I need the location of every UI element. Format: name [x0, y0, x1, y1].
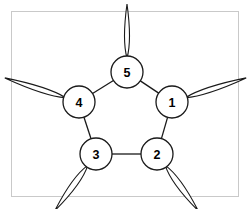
petal-node-3 — [55, 165, 88, 209]
petal-node-1 — [185, 78, 246, 98]
node-2[interactable]: 2 — [141, 138, 173, 170]
node-3-label: 3 — [93, 148, 100, 162]
petals-layer — [5, 4, 246, 209]
node-4-label: 4 — [76, 96, 83, 110]
node-2-label: 2 — [154, 148, 161, 162]
nodes-layer: 12345 — [63, 56, 188, 170]
node-5[interactable]: 5 — [111, 56, 143, 88]
edge-4-5 — [93, 80, 114, 93]
petal-node-4 — [5, 78, 66, 98]
petal-node-5 — [125, 4, 130, 58]
petal-node-2 — [165, 165, 198, 209]
node-3[interactable]: 3 — [80, 138, 112, 170]
edge-3-4 — [84, 117, 91, 139]
edge-1-2 — [161, 117, 167, 138]
edge-5-1 — [140, 81, 158, 93]
node-1-label: 1 — [169, 96, 176, 110]
pentagon-node-diagram: 12345 — [0, 0, 251, 209]
node-5-label: 5 — [124, 66, 131, 80]
figure-root: 12345 — [0, 0, 251, 209]
node-1[interactable]: 1 — [156, 86, 188, 118]
node-4[interactable]: 4 — [63, 86, 95, 118]
